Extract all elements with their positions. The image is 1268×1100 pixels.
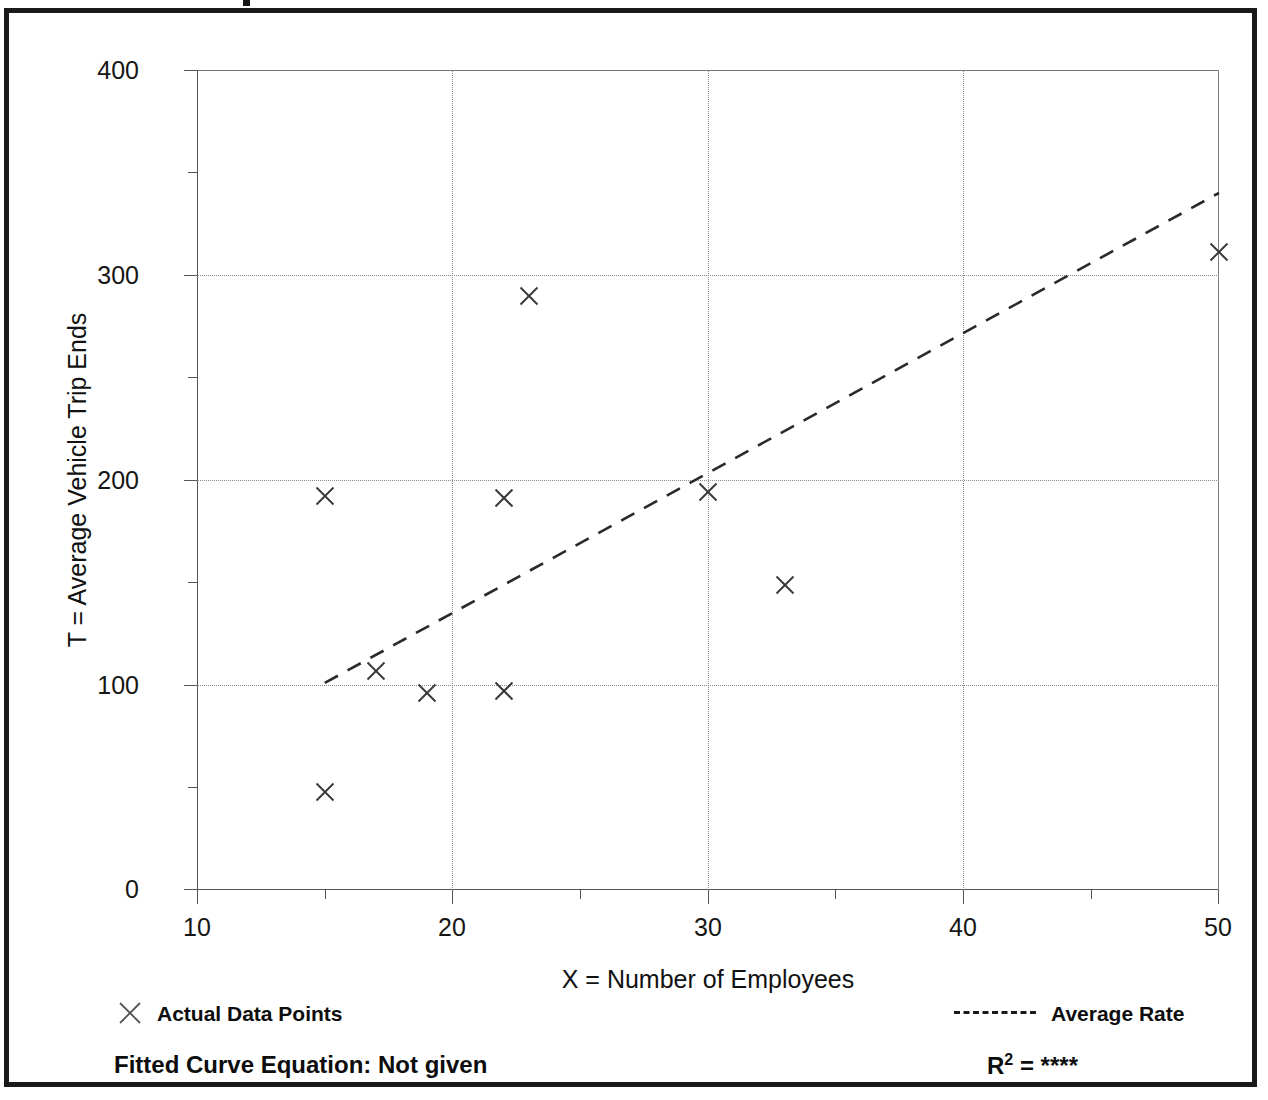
y-tick-label-400: 400 bbox=[49, 56, 139, 85]
x-tick-35 bbox=[835, 890, 836, 899]
chart-legend: Actual Data Points Average Rate bbox=[9, 998, 1262, 1038]
data-point bbox=[314, 781, 336, 803]
r-squared-equals: = bbox=[1013, 1052, 1040, 1079]
data-point bbox=[518, 285, 540, 307]
x-tick-10 bbox=[197, 890, 198, 904]
y-axis-title: T = Average Vehicle Trip Ends bbox=[63, 313, 92, 648]
data-point bbox=[697, 481, 719, 503]
legend-label-actual-data-points: Actual Data Points bbox=[157, 1002, 343, 1026]
y-tick-50 bbox=[188, 787, 197, 788]
y-tick-250 bbox=[188, 377, 197, 378]
y-tick-label-0: 0 bbox=[49, 875, 139, 904]
data-point bbox=[1208, 241, 1230, 263]
y-tick-150 bbox=[188, 582, 197, 583]
y-tick-400 bbox=[184, 70, 197, 71]
r-squared-annotation: R2 = **** bbox=[987, 1051, 1078, 1080]
x-tick-label-30: 30 bbox=[694, 913, 722, 942]
x-tick-label-10: 10 bbox=[183, 913, 211, 942]
r-squared-value: **** bbox=[1041, 1052, 1078, 1079]
y-tick-200 bbox=[184, 480, 197, 481]
dashed-line-icon bbox=[954, 1011, 1036, 1014]
y-tick-label-300: 300 bbox=[49, 261, 139, 290]
y-tick-350 bbox=[188, 172, 197, 173]
x-tick-15 bbox=[325, 890, 326, 899]
y-tick-100 bbox=[184, 685, 197, 686]
x-tick-50 bbox=[1218, 890, 1219, 904]
equation-footer: Fitted Curve Equation: Not given R2 = **… bbox=[9, 1051, 1262, 1095]
y-tick-0 bbox=[184, 889, 197, 890]
y-tick-300 bbox=[184, 275, 197, 276]
chart-plot-area: 400 300 200 100 0 10 20 30 40 50 bbox=[197, 70, 1219, 890]
data-point bbox=[365, 660, 387, 682]
data-point bbox=[416, 682, 438, 704]
x-tick-45 bbox=[1091, 890, 1092, 899]
stray-ink-mark bbox=[243, 0, 250, 6]
x-marker-icon bbox=[117, 1000, 143, 1026]
figure-frame: 400 300 200 100 0 10 20 30 40 50 bbox=[4, 8, 1257, 1087]
x-tick-25 bbox=[580, 890, 581, 899]
average-rate-trendline bbox=[197, 70, 1219, 890]
r-squared-exponent: 2 bbox=[1004, 1051, 1013, 1068]
x-tick-40 bbox=[963, 890, 964, 904]
x-tick-20 bbox=[452, 890, 453, 904]
x-tick-label-20: 20 bbox=[438, 913, 466, 942]
y-tick-label-100: 100 bbox=[49, 671, 139, 700]
figure-page: 400 300 200 100 0 10 20 30 40 50 bbox=[0, 0, 1268, 1100]
legend-label-average-rate: Average Rate bbox=[1051, 1002, 1184, 1026]
fitted-curve-equation: Fitted Curve Equation: Not given bbox=[114, 1051, 487, 1079]
x-tick-label-40: 40 bbox=[949, 913, 977, 942]
x-tick-label-50: 50 bbox=[1204, 913, 1232, 942]
x-tick-30 bbox=[708, 890, 709, 904]
data-point bbox=[774, 574, 796, 596]
data-point bbox=[493, 487, 515, 509]
r-squared-symbol: R bbox=[987, 1052, 1004, 1079]
data-point bbox=[314, 485, 336, 507]
x-axis-title: X = Number of Employees bbox=[562, 965, 855, 994]
data-point bbox=[493, 680, 515, 702]
